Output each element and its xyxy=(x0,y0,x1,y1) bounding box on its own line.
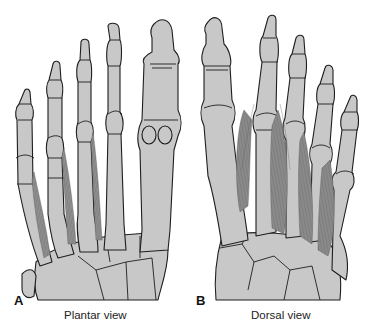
sesamoid-lateral xyxy=(142,126,156,144)
plantar-view-foot xyxy=(16,20,181,300)
foot-anatomy-figure: A Plantar view B Dorsal view xyxy=(0,0,369,326)
caption-dorsal-view: Dorsal view xyxy=(251,309,310,321)
foot-illustration-svg xyxy=(0,0,369,326)
toe-2-a xyxy=(104,23,126,250)
sesamoid-medial xyxy=(158,126,172,144)
panel-label-b: B xyxy=(196,293,205,308)
dorsal-interosseous-1 xyxy=(237,110,252,212)
panel-label-a: A xyxy=(14,293,23,308)
toe-5-b xyxy=(332,95,359,280)
dorsal-view-foot xyxy=(201,15,359,300)
caption-plantar-view: Plantar view xyxy=(64,309,127,321)
